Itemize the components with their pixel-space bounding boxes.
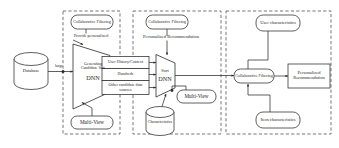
architecture-diagram: Database large Collaborative Filtering P… bbox=[0, 0, 339, 148]
node-other-sources bbox=[102, 81, 149, 95]
edge-provide-personalized bbox=[73, 40, 83, 45]
node-user-characteristics bbox=[256, 15, 300, 31]
node-hundreds bbox=[102, 69, 149, 81]
edge-item-char-to-cf bbox=[248, 84, 270, 112]
edge-stack-to-sort bbox=[149, 63, 156, 88]
node-characteristics bbox=[146, 107, 174, 136]
node-multiview-mid bbox=[177, 90, 216, 103]
node-cf-mid bbox=[146, 15, 188, 29]
edge-user-char-to-cf bbox=[247, 31, 269, 73]
diagram-canvas bbox=[0, 0, 339, 148]
node-personalized-recommendation-right bbox=[288, 64, 330, 88]
node-cf-right bbox=[234, 69, 274, 83]
edge-database-to-candidate bbox=[48, 70, 73, 73]
node-database bbox=[14, 53, 48, 90]
node-user-history bbox=[102, 57, 149, 69]
node-multiview-left bbox=[71, 116, 113, 129]
edge-characteristics-up bbox=[162, 94, 166, 107]
node-cf-left bbox=[71, 15, 113, 29]
node-item-characteristics bbox=[256, 112, 300, 128]
